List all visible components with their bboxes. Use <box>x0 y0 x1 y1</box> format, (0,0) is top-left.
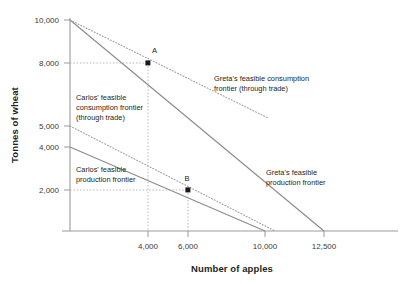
x-tick-labels-group: 4,000 6,000 10,000 12,500 <box>138 242 337 251</box>
axes-group <box>62 18 398 231</box>
annotation-greta-production: Greta's feasible production frontier <box>266 168 326 187</box>
annot-carlos-production-line2: production frontier <box>76 175 136 184</box>
series-carlos-production-frontier <box>70 147 265 231</box>
annot-carlos-consumption-line1: Carlos' feasible <box>76 93 126 102</box>
y-tick-label-5000: 5,000 <box>39 122 60 131</box>
y-ticks-group <box>64 20 70 190</box>
annotation-carlos-production: Carlos' feasible production frontier <box>76 165 136 184</box>
x-tick-label-12500: 12,500 <box>312 242 337 251</box>
y-tick-label-2000: 2,000 <box>39 186 60 195</box>
point-label-b: B <box>184 174 189 183</box>
x-axis-title: Number of apples <box>191 263 273 274</box>
series-greta-production-frontier <box>70 20 324 231</box>
y-tick-label-4000: 4,000 <box>39 143 60 152</box>
annot-carlos-production-line1: Carlos' feasible <box>76 165 126 174</box>
y-tick-label-8000: 8,000 <box>39 59 60 68</box>
guide-lines-group <box>70 63 188 231</box>
point-label-a: A <box>152 46 158 55</box>
annot-carlos-consumption-line3: (through trade) <box>76 113 125 122</box>
marker-point-b <box>185 187 190 192</box>
ppf-trade-chart: 10,000 8,000 5,000 4,000 2,000 4,000 6,0… <box>0 0 404 284</box>
y-tick-labels-group: 10,000 8,000 5,000 4,000 2,000 <box>35 16 60 195</box>
x-tick-label-6000: 6,000 <box>178 242 199 251</box>
annot-greta-production-line2: production frontier <box>266 178 326 187</box>
series-group <box>70 20 324 231</box>
x-tick-label-10000: 10,000 <box>253 242 278 251</box>
x-ticks-group <box>148 231 324 237</box>
y-axis-title: Tonnes of wheat <box>9 86 20 162</box>
y-tick-label-10000: 10,000 <box>35 16 60 25</box>
annot-greta-production-line1: Greta's feasible <box>266 168 317 177</box>
data-markers-group <box>145 60 190 192</box>
annotation-greta-consumption: Greta's feasible consumption frontier (t… <box>214 74 309 93</box>
x-tick-label-4000: 4,000 <box>138 242 159 251</box>
annot-greta-consumption-line2: frontier (through trade) <box>214 84 288 93</box>
annot-greta-consumption-line1: Greta's feasible consumption <box>214 74 309 83</box>
marker-point-a <box>145 60 150 65</box>
chart-canvas: 10,000 8,000 5,000 4,000 2,000 4,000 6,0… <box>0 0 404 284</box>
annotation-carlos-consumption: Carlos' feasible consumption frontier (t… <box>76 93 143 122</box>
annot-carlos-consumption-line2: consumption frontier <box>76 103 143 112</box>
